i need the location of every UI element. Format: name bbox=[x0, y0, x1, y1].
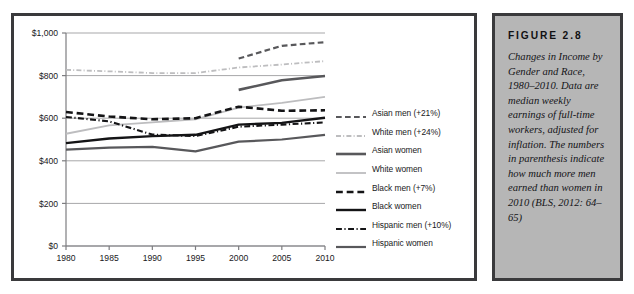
legend-label: White women bbox=[372, 164, 422, 174]
series-line bbox=[239, 76, 325, 90]
data-series-group bbox=[66, 42, 325, 151]
x-tick-label: 1985 bbox=[100, 253, 119, 263]
series-line bbox=[66, 107, 325, 120]
chart-panel: $0$200$400$600$800$1,000 198019851990199… bbox=[11, 13, 477, 281]
x-tick-label: 2005 bbox=[272, 253, 291, 263]
x-tick-label: 1980 bbox=[56, 253, 75, 263]
legend-item: Hispanic men (+10%) bbox=[336, 216, 476, 235]
chart-plot-region: $0$200$400$600$800$1,000 198019851990199… bbox=[14, 16, 474, 278]
x-tick-label: 1995 bbox=[186, 253, 205, 263]
y-tick-label: $200 bbox=[39, 199, 58, 209]
legend-label: Hispanic men (+10%) bbox=[372, 220, 451, 230]
axes-group bbox=[62, 33, 325, 250]
y-tick-label: $0 bbox=[48, 241, 58, 251]
legend-label: White men (+24%) bbox=[372, 127, 441, 137]
figure-container: $0$200$400$600$800$1,000 198019851990199… bbox=[0, 0, 634, 294]
legend-label: Hispanic women bbox=[372, 238, 433, 248]
x-tick-label: 2000 bbox=[229, 253, 248, 263]
figure-caption-text: Changes in Income by Gender and Race, 19… bbox=[508, 50, 608, 225]
legend-swatch-icon bbox=[336, 164, 366, 174]
legend-label: Black women bbox=[372, 201, 421, 211]
legend-item: White women bbox=[336, 160, 476, 179]
legend-label: Asian women bbox=[372, 145, 422, 155]
legend-item: Black men (+7%) bbox=[336, 178, 476, 197]
series-line bbox=[66, 97, 325, 134]
y-tick-label: $800 bbox=[39, 71, 58, 81]
y-tick-labels-group: $0$200$400$600$800$1,000 bbox=[32, 28, 59, 251]
legend-item: Black women bbox=[336, 197, 476, 216]
series-line bbox=[66, 61, 325, 73]
legend-swatch-icon bbox=[336, 108, 366, 118]
chart-legend: Asian men (+21%)White men (+24%)Asian wo… bbox=[336, 104, 476, 253]
x-tick-labels-group: 1980198519901995200020052010 bbox=[56, 253, 334, 263]
legend-label: Black men (+7%) bbox=[372, 183, 435, 193]
x-tick-label: 1990 bbox=[143, 253, 162, 263]
legend-label: Asian men (+21%) bbox=[372, 108, 440, 118]
legend-swatch-icon bbox=[336, 145, 366, 155]
y-tick-label: $600 bbox=[39, 113, 58, 123]
y-tick-label: $400 bbox=[39, 156, 58, 166]
legend-item: Hispanic women bbox=[336, 234, 476, 253]
legend-swatch-icon bbox=[336, 201, 366, 211]
legend-item: White men (+24%) bbox=[336, 123, 476, 142]
x-tick-label: 2010 bbox=[315, 253, 334, 263]
series-line bbox=[239, 42, 325, 58]
legend-item: Asian women bbox=[336, 141, 476, 160]
series-line bbox=[66, 135, 325, 152]
legend-swatch-icon bbox=[336, 220, 366, 230]
figure-caption-panel: FIGURE 2.8 Changes in Income by Gender a… bbox=[492, 13, 623, 281]
y-tick-label: $1,000 bbox=[32, 28, 59, 38]
legend-item: Asian men (+21%) bbox=[336, 104, 476, 123]
legend-swatch-icon bbox=[336, 127, 366, 137]
legend-swatch-icon bbox=[336, 238, 366, 248]
figure-number-title: FIGURE 2.8 bbox=[508, 30, 608, 41]
legend-swatch-icon bbox=[336, 183, 366, 193]
